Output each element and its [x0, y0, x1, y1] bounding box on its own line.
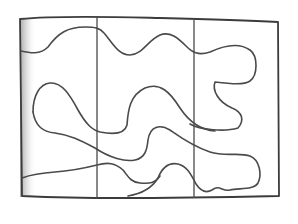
outer-frame: [20, 17, 279, 198]
sketch-drawing: [0, 0, 298, 224]
top-wave-curve: [21, 27, 256, 130]
sketch-canvas: [0, 0, 298, 224]
middle-loop-curve: [33, 83, 215, 133]
bottom-wave-curve: [22, 163, 160, 183]
